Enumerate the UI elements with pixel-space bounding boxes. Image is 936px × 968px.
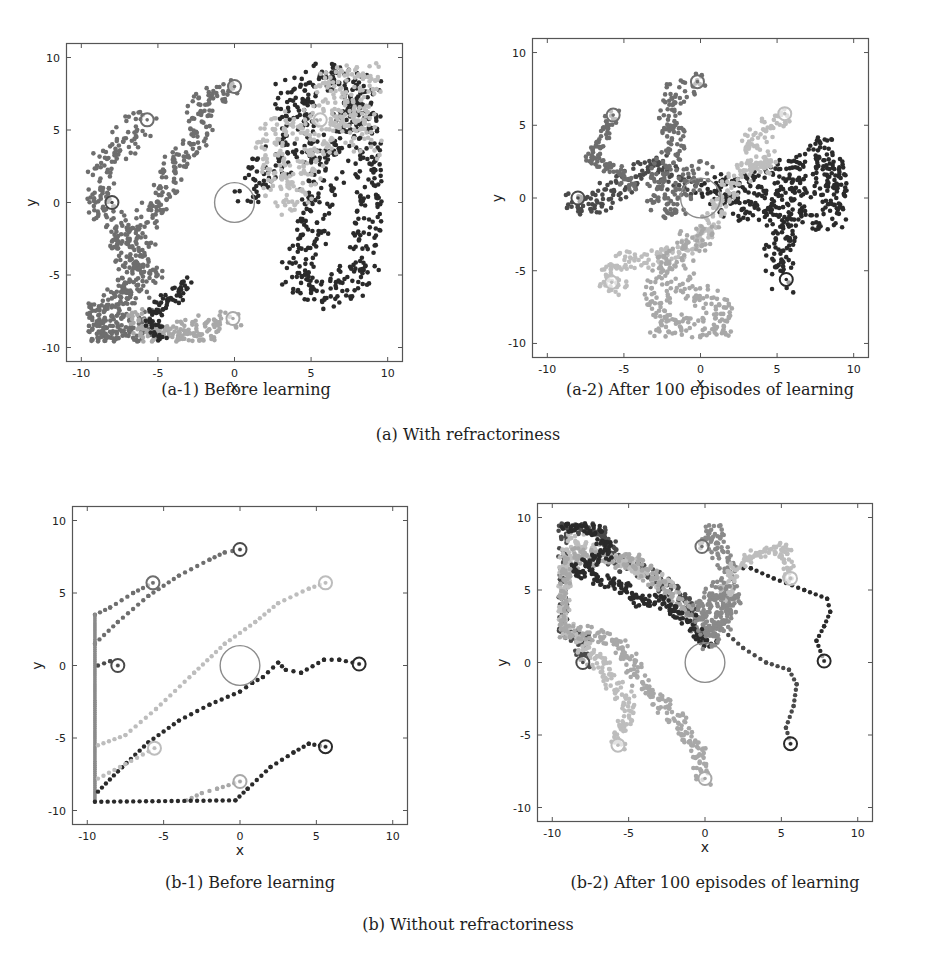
plot-area: -10-50510-10-50510xy: [66, 43, 403, 362]
start-marker: [778, 107, 791, 120]
start-marker: [699, 772, 712, 785]
svg-text:-10: -10: [513, 802, 531, 815]
start-marker: [353, 658, 366, 671]
caption-b1: (b-1) Before learning: [100, 873, 400, 892]
svg-text:5: 5: [308, 367, 315, 380]
start-marker: [319, 740, 332, 753]
caption-b2: (b-2) After 100 episodes of learning: [525, 873, 905, 892]
svg-text:-5: -5: [152, 367, 163, 380]
start-marker: [141, 113, 154, 126]
start-marker: [146, 576, 159, 589]
start-marker: [576, 656, 589, 669]
svg-text:10: 10: [381, 367, 395, 380]
start-marker: [111, 659, 124, 672]
start-marker: [784, 737, 797, 750]
svg-text:5: 5: [519, 119, 526, 132]
start-marker: [234, 775, 247, 788]
svg-text:0: 0: [524, 657, 531, 670]
plot-a2-after-learning-with-refractoriness: -10-50510-10-50510xy: [532, 38, 869, 358]
plot-b1-before-learning-without-refractoriness: -10-50510-10-50510xy: [72, 506, 408, 825]
y-axis-label: y: [29, 661, 45, 669]
start-marker: [148, 742, 161, 755]
x-axis-label: x: [701, 839, 709, 855]
group-caption-b: (b) Without refractoriness: [268, 915, 668, 934]
start-marker: [571, 192, 584, 205]
svg-text:5: 5: [53, 124, 60, 137]
svg-text:5: 5: [774, 363, 781, 376]
svg-text:5: 5: [59, 587, 66, 600]
plot-a1-before-learning-with-refractoriness: -10-50510-10-50510xy: [66, 43, 403, 362]
start-marker: [314, 113, 327, 126]
start-marker: [691, 75, 704, 88]
start-marker: [605, 276, 618, 289]
plot-area: -10-50510-10-50510xy: [537, 503, 873, 822]
svg-text:10: 10: [512, 47, 526, 60]
trajectory-agent-wall: [93, 613, 97, 804]
svg-text:-5: -5: [520, 729, 531, 742]
y-axis-label: y: [23, 198, 39, 206]
start-marker: [784, 572, 797, 585]
start-marker: [607, 109, 620, 122]
svg-text:-10: -10: [508, 337, 526, 350]
start-marker: [695, 540, 708, 553]
svg-text:5: 5: [313, 830, 320, 843]
svg-text:-5: -5: [515, 265, 526, 278]
plot-area: -10-50510-10-50510xy: [72, 506, 408, 825]
group-caption-a: (a) With refractoriness: [268, 425, 668, 444]
start-marker: [319, 576, 332, 589]
svg-text:-10: -10: [538, 363, 556, 376]
svg-text:-10: -10: [78, 830, 96, 843]
svg-text:-5: -5: [49, 269, 60, 282]
start-marker: [226, 312, 239, 325]
svg-text:-5: -5: [623, 827, 634, 840]
svg-text:10: 10: [52, 515, 66, 528]
svg-text:10: 10: [386, 830, 400, 843]
svg-text:5: 5: [778, 827, 785, 840]
svg-text:10: 10: [851, 827, 865, 840]
caption-a1: (a-1) Before learning: [96, 380, 396, 399]
svg-text:10: 10: [847, 363, 861, 376]
plot-b2-after-learning-without-refractoriness: -10-50510-10-50510xy: [537, 503, 873, 822]
caption-a2: (a-2) After 100 episodes of learning: [520, 380, 900, 399]
svg-text:-10: -10: [72, 367, 90, 380]
svg-text:0: 0: [59, 660, 66, 673]
start-marker: [234, 543, 247, 556]
svg-text:-10: -10: [42, 342, 60, 355]
svg-text:0: 0: [53, 197, 60, 210]
svg-text:-5: -5: [55, 732, 66, 745]
plot-area: -10-50510-10-50510xy: [532, 38, 869, 358]
start-marker: [611, 739, 624, 752]
start-marker: [780, 273, 793, 286]
svg-text:0: 0: [519, 192, 526, 205]
y-axis-label: y: [494, 658, 510, 666]
y-axis-label: y: [489, 194, 505, 202]
svg-text:10: 10: [46, 52, 60, 65]
svg-text:-10: -10: [543, 827, 561, 840]
svg-text:-5: -5: [158, 830, 169, 843]
start-marker: [228, 80, 241, 93]
svg-text:10: 10: [517, 512, 531, 525]
svg-text:-5: -5: [618, 363, 629, 376]
svg-text:-10: -10: [48, 805, 66, 818]
start-marker: [818, 655, 831, 668]
svg-text:5: 5: [524, 584, 531, 597]
x-axis-label: x: [236, 842, 244, 858]
start-marker: [105, 196, 118, 209]
